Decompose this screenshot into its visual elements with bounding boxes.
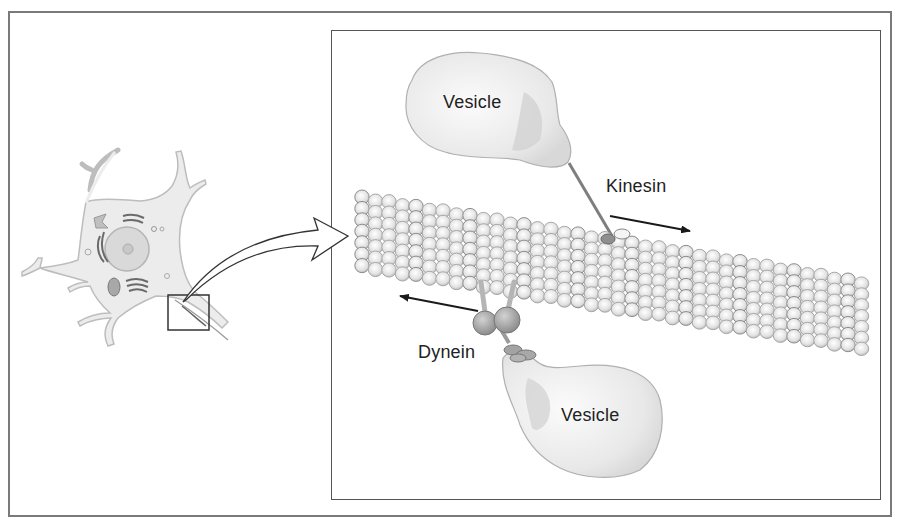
diagram-artwork xyxy=(0,0,904,523)
label-vesicle-top: Vesicle xyxy=(443,92,501,113)
label-vesicle-bottom: Vesicle xyxy=(561,405,619,426)
neuron-cell-illustration xyxy=(22,150,228,346)
kinesin-stalk xyxy=(569,163,612,236)
dynein-motor xyxy=(473,307,520,335)
label-dynein: Dynein xyxy=(418,342,475,363)
microtubule xyxy=(355,190,869,355)
dynein-direction-arrow xyxy=(400,296,478,311)
neuron-nucleolus xyxy=(123,244,133,254)
magnify-arrow xyxy=(183,218,348,302)
mitochondrion xyxy=(108,278,120,296)
label-kinesin: Kinesin xyxy=(606,176,666,197)
